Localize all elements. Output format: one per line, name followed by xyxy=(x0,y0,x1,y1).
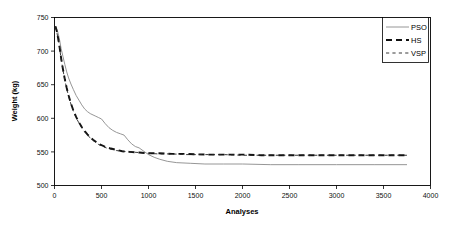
chart-figure: 500550600650700750 050010001500200025003… xyxy=(0,0,459,227)
x-axis-title: Analyses xyxy=(226,207,259,216)
convergence-line-chart: 500550600650700750 050010001500200025003… xyxy=(0,0,459,227)
x-tick-label: 0 xyxy=(53,192,57,199)
y-tick-label: 700 xyxy=(37,48,49,55)
y-axis-title: Weight (kg) xyxy=(10,80,19,121)
x-tick-label: 500 xyxy=(96,192,108,199)
x-tick-label: 3500 xyxy=(376,192,392,199)
y-tick-label: 600 xyxy=(37,115,49,122)
y-tick-label: 650 xyxy=(37,81,49,88)
x-tick-label: 2000 xyxy=(235,192,251,199)
x-tick-label: 4000 xyxy=(423,192,439,199)
legend-label-vsp: VSP xyxy=(411,49,426,58)
x-tick-label: 1500 xyxy=(188,192,204,199)
x-tick-label: 1000 xyxy=(141,192,157,199)
legend-label-hs: HS xyxy=(411,36,421,45)
y-tick-label: 750 xyxy=(37,14,49,21)
y-tick-label: 500 xyxy=(37,182,49,189)
legend-label-pso: PSO xyxy=(411,23,427,32)
x-tick-label: 3000 xyxy=(329,192,345,199)
x-tick-label: 2500 xyxy=(282,192,298,199)
chart-legend: PSOHSVSP xyxy=(383,18,429,63)
y-tick-label: 550 xyxy=(37,149,49,156)
